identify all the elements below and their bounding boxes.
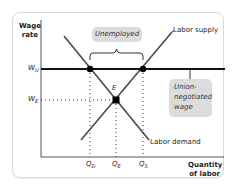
labor-demand-curve [64, 36, 149, 140]
tick-qe: QE [112, 161, 121, 169]
equilibrium-point [113, 97, 120, 104]
labor-demand-label: Labor demand [150, 139, 201, 146]
unemployed-label: Unemployed [92, 27, 142, 42]
unemployed-brace [90, 49, 143, 60]
y-axis-label: Wage rate [19, 22, 41, 40]
tick-we: WE [28, 96, 38, 104]
union-wage-label: Union- negotiated wage [169, 79, 212, 117]
supply-at-union-wage-point [140, 66, 146, 72]
tick-wu: WU [28, 65, 39, 73]
demand-at-union-wage-point [87, 66, 93, 72]
labor-supply-curve [81, 32, 172, 140]
equilibrium-label: E [112, 85, 116, 92]
tick-qs: QS [139, 161, 148, 169]
labor-supply-label: Labor supply [173, 27, 218, 34]
tick-qd: QD [86, 161, 95, 169]
x-axis-label: Quantity of labor [188, 161, 220, 179]
